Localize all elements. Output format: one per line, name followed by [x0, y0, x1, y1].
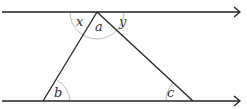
geometry-diagram: x a y b c — [0, 0, 247, 109]
angle-label-y: y — [118, 14, 127, 29]
triangle-right-side — [97, 12, 193, 101]
angle-label-c: c — [167, 85, 175, 100]
angle-label-a: a — [95, 19, 103, 34]
angle-label-b: b — [54, 85, 62, 100]
triangle-left-side — [43, 12, 97, 101]
angle-label-x: x — [76, 14, 84, 29]
